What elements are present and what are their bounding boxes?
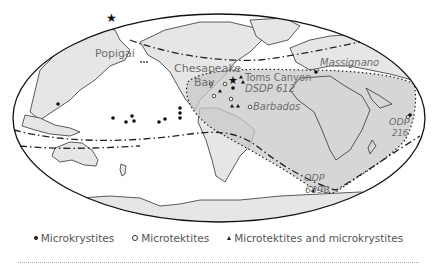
label-chesapeake: Chesapeake xyxy=(174,63,241,74)
legend-label: Microtektites and microkrystites xyxy=(234,232,403,244)
open-circle-icon xyxy=(132,235,138,241)
legend-item-microkrystites: Microkrystites xyxy=(34,232,114,244)
label-odp689b-line2: 689B xyxy=(305,185,330,195)
legend-item-both: Microtektites and microkrystites xyxy=(227,232,403,244)
filled-triangle-icon xyxy=(227,236,231,240)
world-map: ★ ★ xyxy=(0,0,437,230)
legend-label: Microkrystites xyxy=(41,232,114,244)
filled-circle-icon xyxy=(34,236,38,240)
legend: Microkrystites Microtektites Microtektit… xyxy=(0,232,437,244)
label-popigai: Popigai xyxy=(95,48,135,59)
legend-item-microtektites: Microtektites xyxy=(132,232,209,244)
label-massignano: Massignano xyxy=(320,58,379,68)
legend-label: Microtektites xyxy=(141,232,209,244)
label-odp689b-line1: ODP xyxy=(304,173,325,183)
pacific-dots-small xyxy=(140,61,148,63)
label-toms-canyon: Toms Canyon xyxy=(245,73,311,83)
label-dsdp612: DSDP 612 xyxy=(245,84,295,94)
star-icon-popigai: ★ xyxy=(106,11,117,25)
star-icon-chesapeake: ★ xyxy=(228,74,238,87)
dotted-divider xyxy=(18,262,419,263)
label-bay: Bay xyxy=(194,77,215,88)
label-odp216-line2: 216 xyxy=(392,129,408,138)
label-odp216-line1: ODP xyxy=(389,117,410,127)
label-barbados: Barbados xyxy=(253,102,300,112)
